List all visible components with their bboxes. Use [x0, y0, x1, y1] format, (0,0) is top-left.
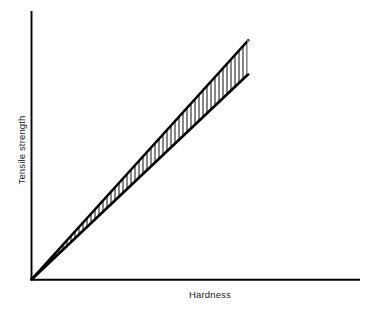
y-axis-label: Tensile strength	[16, 116, 27, 185]
x-axis-label: Hardness	[189, 289, 231, 300]
tensile-strength-vs-hardness-chart: Tensile strength Hardness	[0, 0, 378, 311]
figure-root: Tensile strength Hardness	[0, 0, 378, 311]
chart-background	[0, 0, 378, 311]
